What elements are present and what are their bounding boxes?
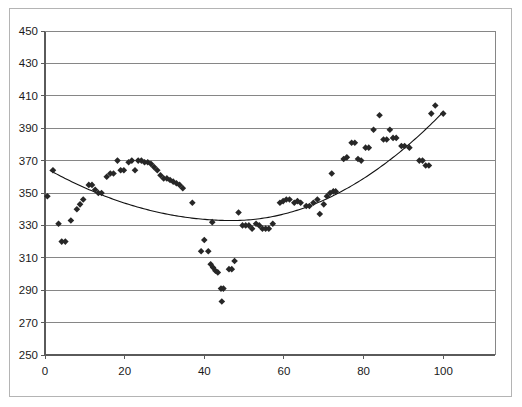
y-tick-label: 290 <box>19 284 38 296</box>
x-tick-label: 20 <box>118 365 131 377</box>
data-point-marker <box>235 209 242 216</box>
y-tick-label: 370 <box>19 155 38 167</box>
axes-group <box>41 31 495 359</box>
data-point-marker <box>320 201 327 208</box>
y-tick-label: 250 <box>19 349 38 361</box>
data-point-marker <box>376 112 383 119</box>
data-point-marker <box>432 102 439 109</box>
plot-svg: 250270290310330350370390410430450 020406… <box>0 0 522 407</box>
x-tick-label: 0 <box>42 365 48 377</box>
y-tick-label: 390 <box>19 122 38 134</box>
data-point-marker <box>370 127 377 134</box>
data-point-marker <box>201 237 208 244</box>
data-point-marker <box>387 127 394 134</box>
data-points-group <box>44 102 446 305</box>
x-tick-label: 100 <box>434 365 453 377</box>
data-point-marker <box>132 167 139 174</box>
data-point-marker <box>114 157 121 164</box>
y-tick-label: 310 <box>19 252 38 264</box>
scatter-chart: 250270290310330350370390410430450 020406… <box>0 0 522 407</box>
data-point-marker <box>428 110 435 117</box>
y-tick-label: 350 <box>19 187 38 199</box>
data-point-marker <box>80 196 87 203</box>
gridlines-group <box>45 31 495 323</box>
x-axis-tick-labels: 020406080100 <box>42 365 453 377</box>
y-tick-label: 450 <box>19 25 38 37</box>
data-point-marker <box>68 217 75 224</box>
data-point-marker <box>189 199 196 206</box>
data-point-marker <box>74 206 81 213</box>
data-point-marker <box>55 220 62 227</box>
y-tick-label: 430 <box>19 57 38 69</box>
y-tick-label: 330 <box>19 219 38 231</box>
y-tick-label: 270 <box>19 317 38 329</box>
x-tick-label: 80 <box>357 365 370 377</box>
data-point-marker <box>316 211 323 218</box>
data-point-marker <box>219 298 226 305</box>
data-point-marker <box>231 258 238 265</box>
data-point-marker <box>198 248 205 255</box>
data-point-marker <box>328 170 335 177</box>
data-point-marker <box>77 201 84 208</box>
y-axis-tick-labels: 250270290310330350370390410430450 <box>19 25 38 361</box>
data-point-marker <box>440 110 447 117</box>
x-tick-label: 60 <box>278 365 291 377</box>
data-point-marker <box>50 167 57 174</box>
data-point-marker <box>62 238 69 245</box>
y-tick-label: 410 <box>19 90 38 102</box>
x-tick-label: 40 <box>198 365 211 377</box>
data-point-marker <box>205 248 212 255</box>
data-point-marker <box>269 220 276 227</box>
